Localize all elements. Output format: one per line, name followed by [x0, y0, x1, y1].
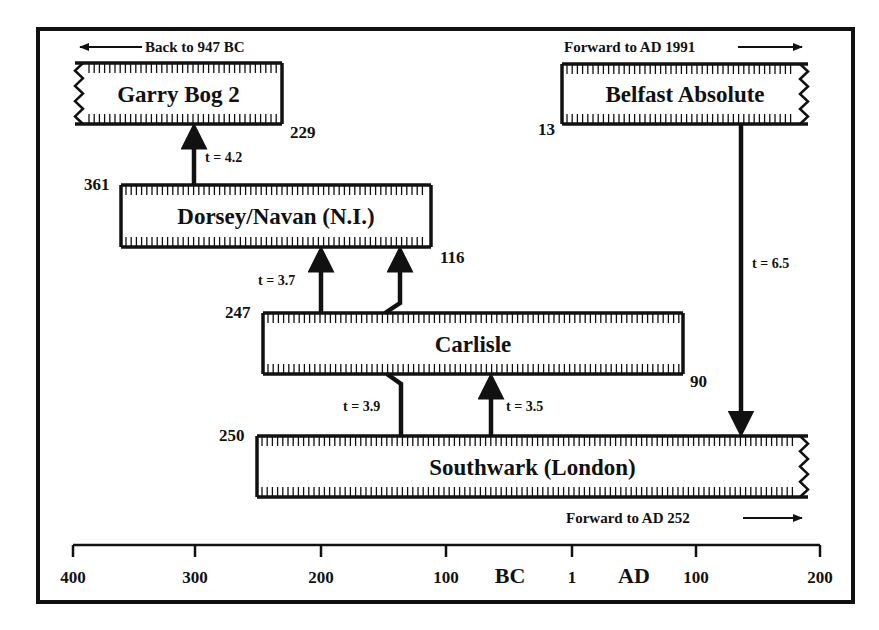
extension-label: Forward to AD 1991 — [564, 39, 695, 55]
end-year-label: 229 — [290, 123, 316, 142]
axis-tick-label: 300 — [182, 568, 208, 587]
chronology-dorsey-navan: Dorsey/Navan (N.I.)361116 — [84, 175, 465, 267]
link-southwark-carlisle-b: t = 3.5 — [491, 386, 543, 436]
start-year-label: 361 — [84, 175, 110, 194]
extension-label: Forward to AD 252 — [566, 510, 690, 526]
chronology-belfast-absolute: Belfast Absolute13Forward to AD 1991 — [538, 39, 808, 139]
chronology-garry-bog-2: Garry Bog 2229Back to 947 BC — [75, 39, 316, 142]
t-value-label: t = 6.5 — [752, 256, 789, 271]
start-year-label: 250 — [219, 426, 245, 445]
chronology-carlisle: Carlisle24790 — [225, 303, 707, 391]
t-value-label: t = 3.5 — [506, 399, 543, 414]
axis-tick-label: 100 — [683, 568, 709, 587]
axis-tick-label: 200 — [807, 568, 833, 587]
extension-label: Back to 947 BC — [145, 39, 245, 55]
chronology-southwark-london: Southwark (London)250Forward to AD 252 — [219, 426, 808, 526]
era-label: AD — [618, 563, 650, 588]
chronology-name: Dorsey/Navan (N.I.) — [177, 204, 374, 229]
chronology-name: Belfast Absolute — [605, 82, 764, 107]
axis-tick-label: 1 — [568, 568, 577, 587]
era-label: BC — [495, 563, 526, 588]
axis-tick-label: 400 — [60, 568, 86, 587]
chronology-diagram: Garry Bog 2229Back to 947 BCBelfast Abso… — [0, 0, 879, 630]
start-year-label: 247 — [225, 303, 251, 322]
t-value-label: t = 3.7 — [258, 273, 295, 288]
chronology-name: Southwark (London) — [429, 455, 635, 480]
link-carlisle-dorsey-b — [385, 259, 400, 313]
end-year-label: 116 — [440, 248, 465, 267]
axis-tick-label: 200 — [308, 568, 334, 587]
time-axis: 4003002001001100200BCAD — [60, 545, 833, 588]
axis-tick-label: 100 — [433, 568, 459, 587]
link-southwark-carlisle-a: t = 3.9 — [343, 374, 401, 436]
link-carlisle-dorsey-a: t = 3.7 — [258, 259, 321, 313]
link-belfast-southwark: t = 6.5 — [741, 124, 789, 424]
chronology-name: Garry Bog 2 — [117, 82, 240, 107]
end-year-label: 90 — [690, 372, 707, 391]
link-arrow-icon — [387, 374, 401, 436]
t-value-label: t = 3.9 — [343, 399, 380, 414]
link-dorsey-garry: t = 4.2 — [194, 136, 242, 185]
t-value-label: t = 4.2 — [205, 150, 242, 165]
chronology-boxes: Garry Bog 2229Back to 947 BCBelfast Abso… — [75, 39, 808, 526]
start-year-label: 13 — [538, 120, 555, 139]
chronology-name: Carlisle — [435, 332, 512, 357]
link-arrow-icon — [385, 259, 400, 313]
